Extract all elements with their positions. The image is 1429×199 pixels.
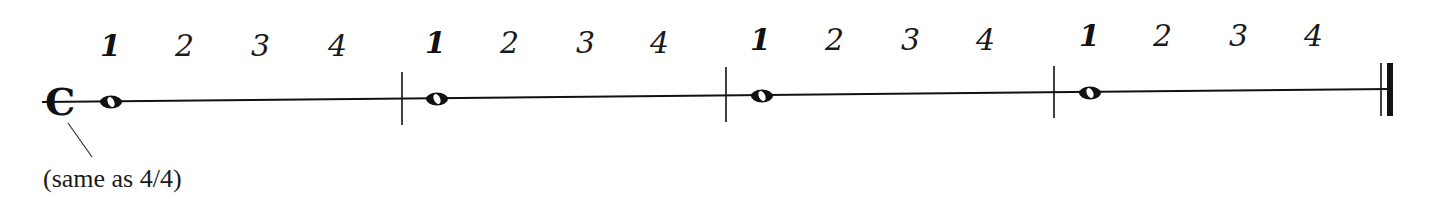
beat-count: 1 xyxy=(750,22,771,57)
beat-count: 2 xyxy=(824,22,844,57)
beat-count: 3 xyxy=(901,22,920,57)
beat-count: 4 xyxy=(649,25,669,60)
annotation-leader-line xyxy=(68,123,92,157)
final-barline-thick xyxy=(1387,63,1393,116)
whole-note-1 xyxy=(100,96,122,109)
beat-count: 1 xyxy=(425,25,446,60)
beat-count: 2 xyxy=(1152,18,1172,53)
beat-count: 1 xyxy=(100,28,121,63)
whole-note-4 xyxy=(1079,87,1101,100)
common-time-symbol: C xyxy=(45,79,75,124)
beat-counts-measure-3: 1 2 3 4 xyxy=(750,22,995,57)
staff-line xyxy=(42,89,1390,102)
beat-count: 3 xyxy=(251,28,270,63)
beat-count: 4 xyxy=(1303,18,1323,53)
beat-counts-measure-1: 1 2 3 4 xyxy=(100,28,347,63)
beat-count: 1 xyxy=(1079,18,1100,53)
beat-count: 2 xyxy=(499,25,519,60)
beat-count: 3 xyxy=(576,25,595,60)
time-signature-annotation: (same as 4/4) xyxy=(43,164,182,193)
beat-counts-measure-4: 1 2 3 4 xyxy=(1079,18,1323,53)
rhythm-diagram: C (same as 4/4) xyxy=(0,0,1429,199)
beat-count: 2 xyxy=(174,28,194,63)
whole-note-3 xyxy=(751,90,773,103)
beat-counts-measure-2: 1 2 3 4 xyxy=(425,25,669,60)
beat-count: 3 xyxy=(1229,18,1248,53)
beat-count: 4 xyxy=(975,22,995,57)
beat-count: 4 xyxy=(327,28,347,63)
whole-note-2 xyxy=(426,93,448,106)
